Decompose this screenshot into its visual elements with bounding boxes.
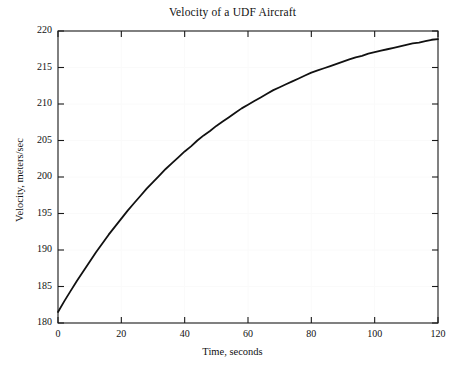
chart-figure: Velocity of a UDF Aircraft Velocity, met… [0, 0, 465, 366]
x-tick-label: 100 [355, 328, 395, 339]
y-tick-label: 180 [18, 316, 52, 327]
x-tick-label: 80 [291, 328, 331, 339]
x-tick-label: 40 [165, 328, 205, 339]
x-tick-label: 20 [101, 328, 141, 339]
y-tick-label: 220 [18, 24, 52, 35]
y-tick-label: 210 [18, 97, 52, 108]
plot-canvas [0, 0, 465, 366]
y-tick-label: 200 [18, 170, 52, 181]
y-tick-label: 185 [18, 280, 52, 291]
x-tick-label: 120 [418, 328, 458, 339]
x-tick-label: 60 [228, 328, 268, 339]
y-tick-label: 215 [18, 61, 52, 72]
x-tick-label: 0 [38, 328, 78, 339]
y-tick-label: 205 [18, 134, 52, 145]
gridlines [58, 31, 438, 323]
y-tick-label: 195 [18, 207, 52, 218]
y-tick-label: 190 [18, 243, 52, 254]
